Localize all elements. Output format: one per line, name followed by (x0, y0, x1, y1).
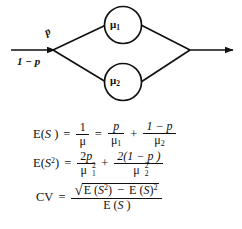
eq1-f1-numerator: 1 (77, 121, 89, 134)
eq2-f2-den-mu: μ (133, 163, 139, 177)
node-label-mu1: μ1 (110, 19, 120, 32)
eq2-equals: = (59, 156, 76, 171)
eq1-equals-2: = (90, 127, 107, 142)
eq1-f3-den-sub: 2 (161, 139, 165, 148)
edge-mu2-to-join (141, 50, 190, 82)
edge-split-to-mu1 (53, 25, 106, 50)
eq3-den-suffix: ) (124, 198, 131, 212)
eq3-radicand: E (S2)−E (S)2 (82, 183, 160, 198)
eq3-t1-prefix: E ( (84, 183, 98, 197)
eq1-lhs-prefix: E( (33, 127, 45, 141)
eq2-f2-denominator: μ22 (130, 164, 147, 177)
eq2-f1-den-mu-group: μ12 (81, 164, 92, 177)
eq1-fraction-one-minus-p-over-mu2: 1 − p μ2 (143, 120, 175, 149)
eq2-fraction-2p-over-mu1-squared: 2p μ12 (77, 150, 95, 177)
eq2-fraction-2-one-minus-p-over-mu2-squared: 2(1 − p ) μ22 (114, 150, 163, 177)
eq1-fraction-p-over-mu1: p μ1 (108, 120, 124, 149)
eq1-f3-denominator: μ2 (151, 134, 167, 149)
eq2-f1-den-sup: 2 (92, 162, 96, 170)
eq3-t2-prefix: E ( (129, 183, 143, 197)
eq2-f1-denominator: μ12 (78, 164, 95, 177)
eq1-f2-denominator: μ1 (108, 134, 124, 149)
eq3-den-prefix: E ( (103, 198, 117, 212)
eq1-f1-denominator: μ (76, 135, 88, 148)
equation-coefficient-of-variation: CV = √ E (S2)−E (S)2 E (S ) (36, 183, 163, 212)
node-label-mu2: μ2 (110, 75, 120, 88)
eq2-lhs: E(S2) (33, 156, 59, 171)
eq2-f2-den-sub: 2 (145, 170, 149, 178)
equation-second-moment: E(S2) = 2p μ12 + 2(1 − p ) μ22 (33, 150, 164, 177)
eq3-lhs: CV (36, 190, 53, 205)
eq3-numerator: √ E (S2)−E (S)2 (71, 183, 162, 198)
eq3-equals: = (53, 190, 70, 205)
branching-diagram: μ1 μ2 p 1 − p (0, 0, 242, 112)
eq1-plus: + (125, 127, 142, 142)
eq1-equals-1: = (58, 127, 75, 142)
eq2-f2-den-sup: 2 (145, 162, 149, 170)
eq1-f2-den-sub: 1 (117, 139, 121, 148)
edge-split-to-mu2 (53, 50, 106, 82)
figure-container: μ1 μ2 p 1 − p E(S ) = 1 μ = p μ1 + (0, 0, 242, 229)
eq1-f2-numerator: p (110, 120, 122, 133)
eq2-f1-den-mu: μ (81, 163, 87, 177)
eq3-denominator: E (S ) (100, 199, 133, 212)
eq1-fraction-one-over-mu: 1 μ (76, 121, 88, 148)
eq2-f2-den-mu-group: μ22 (133, 164, 144, 177)
eq3-fraction-cv: √ E (S2)−E (S)2 E (S ) (71, 183, 162, 212)
equation-expected-service-time: E(S ) = 1 μ = p μ1 + 1 − p μ2 (33, 120, 177, 149)
eq1-lhs: E(S ) (33, 127, 58, 142)
eq1-lhs-suffix: ) (51, 127, 58, 141)
node-mu2-subscript: 2 (116, 79, 120, 88)
eq1-f3-numerator: 1 − p (143, 120, 175, 133)
radical-sign-icon: √ (74, 183, 82, 198)
edge-mu1-to-join (141, 25, 190, 50)
eq2-f1-den-sub: 1 (92, 170, 96, 178)
eq2-plus: + (96, 156, 113, 171)
eq3-t2-sup: 2 (153, 183, 157, 192)
eq3-minus: − (112, 183, 129, 197)
eq2-lhs-prefix: E( (33, 156, 45, 170)
branch-label-lower-one-minus-p: 1 − p (17, 56, 40, 67)
eq2-f2-numerator: 2(1 − p ) (114, 150, 163, 163)
equations-block: E(S ) = 1 μ = p μ1 + 1 − p μ2 E(S2) (0, 117, 242, 229)
node-mu1-subscript: 1 (116, 23, 120, 32)
eq3-radical: √ E (S2)−E (S)2 (74, 183, 159, 198)
